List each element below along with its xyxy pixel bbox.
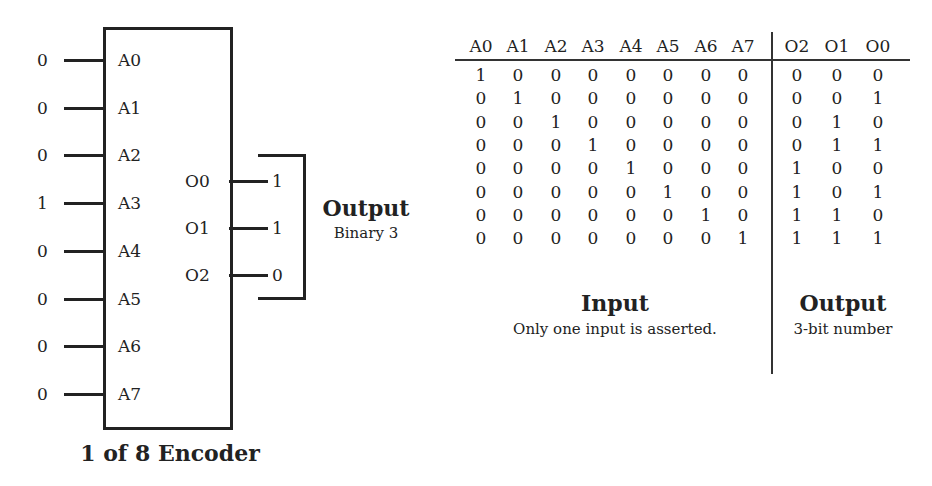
output-caption: Output 3-bit number: [773, 290, 913, 338]
input-cell: 0: [503, 67, 533, 84]
output-cell: 1: [782, 160, 812, 177]
header-a1: A1: [501, 38, 535, 55]
input-cell: 1: [503, 90, 533, 107]
input-cell: 0: [578, 160, 608, 177]
input-cell: 0: [578, 114, 608, 131]
input-label: A1: [118, 100, 141, 117]
input-label: A2: [118, 147, 141, 164]
input-cell: 0: [616, 67, 646, 84]
bracket-bottom: [258, 297, 306, 300]
input-cell: 0: [728, 67, 758, 84]
input-cell: 0: [616, 184, 646, 201]
input-cell: 1: [616, 160, 646, 177]
output-label: O2: [185, 267, 210, 284]
output-group-label: Output Binary 3: [312, 195, 420, 242]
input-cell: 0: [541, 137, 571, 154]
input-cell: 0: [503, 207, 533, 224]
input-cell: 0: [691, 114, 721, 131]
input-wire: [64, 202, 104, 205]
input-cell: 0: [578, 67, 608, 84]
input-cell: 0: [616, 230, 646, 247]
input-cell: 0: [578, 230, 608, 247]
input-cell: 0: [653, 114, 683, 131]
output-value: 1: [272, 220, 283, 237]
output-cell: 1: [863, 230, 893, 247]
input-value: 0: [37, 291, 48, 308]
input-cell: 0: [728, 114, 758, 131]
output-wire: [229, 227, 268, 230]
input-wire: [64, 59, 104, 62]
input-cell: 0: [578, 184, 608, 201]
output-group-title: Output: [312, 195, 420, 221]
input-cell: 0: [728, 137, 758, 154]
output-value: 0: [272, 267, 283, 284]
output-label: O0: [185, 173, 210, 190]
output-cell: 0: [782, 137, 812, 154]
input-wire: [64, 154, 104, 157]
input-cell: 0: [653, 207, 683, 224]
input-cell: 0: [503, 137, 533, 154]
input-value: 1: [37, 195, 48, 212]
input-wire: [64, 393, 104, 396]
input-label: A3: [118, 195, 141, 212]
input-cell: 0: [691, 160, 721, 177]
header-a5: A5: [651, 38, 685, 55]
input-cell: 0: [503, 114, 533, 131]
output-cell: 1: [863, 90, 893, 107]
input-cell: 0: [541, 160, 571, 177]
input-cell: 1: [653, 184, 683, 201]
output-wire: [229, 274, 268, 277]
header-a3: A3: [576, 38, 610, 55]
input-cell: 0: [466, 230, 496, 247]
input-value: 0: [37, 338, 48, 355]
output-value: 1: [272, 173, 283, 190]
input-cell: 0: [466, 160, 496, 177]
output-label: O1: [185, 220, 210, 237]
input-cell: 0: [578, 90, 608, 107]
input-cell: 1: [691, 207, 721, 224]
input-cell: 0: [616, 114, 646, 131]
output-cell: 0: [782, 114, 812, 131]
output-cell: 1: [863, 137, 893, 154]
input-cell: 1: [541, 114, 571, 131]
input-cell: 0: [541, 184, 571, 201]
output-cell: 1: [822, 114, 852, 131]
output-cell: 0: [822, 160, 852, 177]
output-cell: 1: [782, 207, 812, 224]
output-caption-subtitle: 3-bit number: [773, 320, 913, 338]
input-cell: 0: [466, 207, 496, 224]
header-a0: A0: [464, 38, 498, 55]
input-cell: 0: [541, 67, 571, 84]
header-a4: A4: [614, 38, 648, 55]
input-cell: 0: [691, 230, 721, 247]
input-cell: 1: [578, 137, 608, 154]
input-cell: 0: [691, 137, 721, 154]
input-value: 0: [37, 100, 48, 117]
output-group-subtitle: Binary 3: [312, 224, 420, 242]
input-value: 0: [37, 52, 48, 69]
header-a6: A6: [689, 38, 723, 55]
input-cell: 0: [541, 90, 571, 107]
input-cell: 0: [728, 207, 758, 224]
input-cell: 0: [466, 137, 496, 154]
input-cell: 1: [728, 230, 758, 247]
output-cell: 0: [863, 67, 893, 84]
input-caption: Input Only one input is asserted.: [470, 290, 760, 338]
header-a2: A2: [539, 38, 573, 55]
output-cell: 1: [822, 230, 852, 247]
output-cell: 0: [822, 90, 852, 107]
input-cell: 0: [653, 137, 683, 154]
encoder-title: 1 of 8 Encoder: [70, 440, 270, 466]
input-wire: [64, 345, 104, 348]
output-cell: 0: [782, 67, 812, 84]
output-cell: 1: [782, 230, 812, 247]
input-cell: 0: [503, 160, 533, 177]
header-o0: O0: [861, 38, 895, 55]
output-cell: 0: [822, 67, 852, 84]
input-cell: 0: [503, 184, 533, 201]
input-cell: 0: [728, 90, 758, 107]
output-cell: 1: [822, 137, 852, 154]
input-cell: 0: [653, 67, 683, 84]
input-cell: 0: [691, 67, 721, 84]
input-cell: 0: [466, 90, 496, 107]
